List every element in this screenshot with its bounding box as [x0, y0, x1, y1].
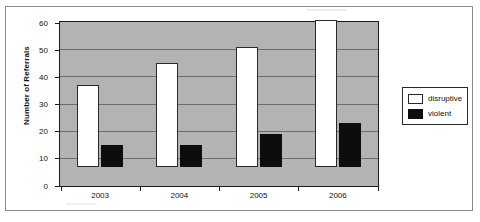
- bar-violent-2004: [180, 145, 202, 167]
- chart-frame: Number of Referrals 01020304050602003200…: [5, 6, 473, 211]
- bar-disruptive-2006: [315, 20, 337, 167]
- legend-item-violent[interactable]: violent: [408, 107, 463, 120]
- black-square-swatch-icon: [408, 109, 423, 119]
- chart-legend: disruptive violent: [402, 87, 468, 125]
- bar-disruptive-2004: [156, 63, 178, 166]
- bar-violent-2006: [339, 123, 361, 166]
- bar-disruptive-2005: [236, 47, 258, 167]
- bar-violent-2003: [101, 145, 123, 167]
- legend-label: violent: [428, 109, 451, 118]
- bar-disruptive-2003: [77, 85, 99, 167]
- white-square-swatch-icon: [408, 94, 423, 104]
- legend-label: disruptive: [428, 94, 462, 103]
- bar-violent-2005: [260, 134, 282, 167]
- legend-item-disruptive[interactable]: disruptive: [408, 92, 463, 105]
